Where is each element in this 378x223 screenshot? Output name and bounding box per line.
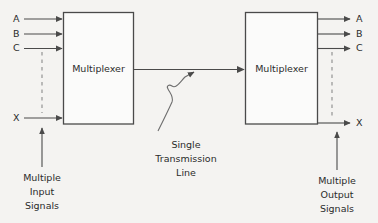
diagram-canvas: Multiplexer Multiplexer A B C X [0,0,378,223]
output-label-a: A [356,13,363,24]
input-label-c: C [13,42,20,53]
center-caption-line2: Transmission [154,153,216,164]
left-mux-label: Multiplexer [72,63,125,74]
input-label-a: A [13,13,20,24]
left-mux-block: Multiplexer [64,13,134,125]
input-label-x: X [13,112,20,123]
output-label-x: X [356,117,363,128]
right-caption-line3: Signals [320,203,354,214]
right-caption-line2: Output [321,189,354,200]
right-caption-line1: Multiple [318,175,356,186]
input-label-b: B [13,28,20,39]
left-caption-line3: Signals [25,200,59,211]
left-caption-line1: Multiple [23,172,61,183]
right-mux-block: Multiplexer [246,13,318,125]
output-label-b: B [356,28,363,39]
right-mux-label: Multiplexer [255,63,308,74]
center-caption-line1: Single [171,139,200,150]
center-caption-line3: Line [176,167,196,178]
left-caption-line2: Input [30,186,55,197]
output-label-c: C [356,42,363,53]
multiplexer-diagram: Multiplexer Multiplexer A B C X [0,0,378,223]
